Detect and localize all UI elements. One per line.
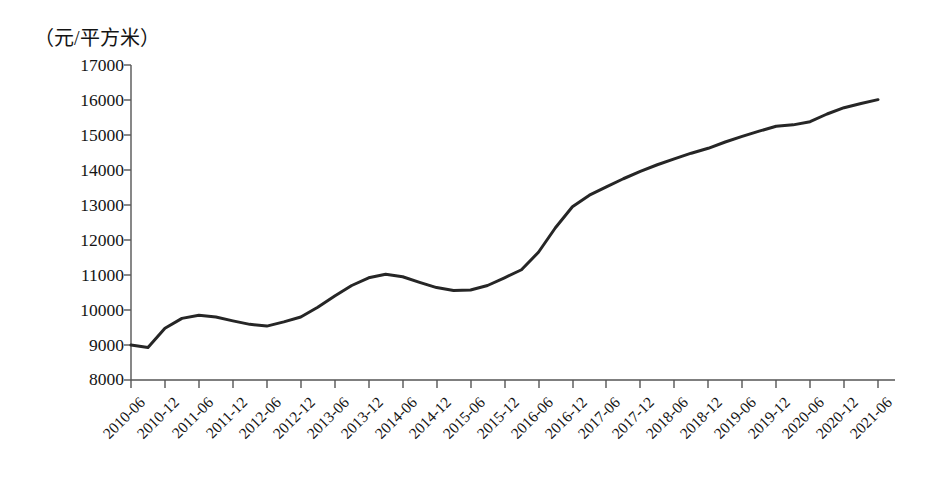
x-tick-marks <box>131 380 878 388</box>
line-chart: （元/平方米） 17000 16000 15000 14000 13000 12… <box>0 0 930 496</box>
price-line-series <box>131 100 878 348</box>
y-tick-marks <box>124 65 131 380</box>
